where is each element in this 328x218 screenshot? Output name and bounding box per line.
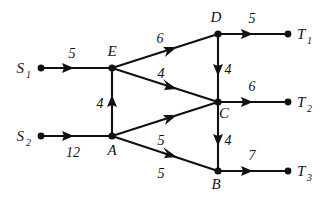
node-dot-s1: [38, 65, 45, 72]
edge-line-e-c: [112, 68, 218, 102]
network-graph-canvas: S 1 S 2 E A D C B T 1 T 2 T 3 5 12 4 6 4…: [0, 0, 328, 218]
edge-b-t3: [218, 166, 288, 176]
node-sub-t3: 3: [306, 172, 312, 183]
node-sub-s2: 2: [26, 137, 31, 148]
edge-line-a-b: [112, 136, 218, 171]
edge-weight-a-e: 4: [97, 96, 104, 111]
node-label-t3: T: [297, 163, 307, 179]
node-dot-t3: [285, 168, 292, 175]
node-dot-e: [108, 64, 115, 71]
edge-weight-s1-e: 5: [69, 46, 76, 61]
edge-d-c: [213, 34, 223, 102]
edge-line-a-c: [112, 102, 218, 136]
edge-weight-e-c: 4: [158, 66, 165, 81]
edge-weight-d-c: 4: [225, 62, 232, 77]
edge-e-c: [112, 68, 218, 102]
node-label-t1: T: [297, 26, 307, 42]
edge-s2-a: [41, 131, 112, 141]
edge-weight-a-c: 5: [158, 133, 165, 148]
edge-weight-a-b: 5: [158, 166, 165, 181]
node-sub-s1: 1: [26, 69, 31, 80]
edge-s1-e: [41, 63, 112, 73]
edge-a-b: [112, 136, 218, 171]
edge-line-e-d: [112, 34, 218, 68]
edge-weight-e-d: 6: [157, 31, 164, 46]
node-dot-b: [214, 167, 221, 174]
node-dot-d: [214, 30, 221, 37]
edge-d-t1: [218, 29, 288, 39]
node-label-t2: T: [297, 94, 307, 110]
node-label-e: E: [106, 43, 116, 59]
edge-e-d: [112, 34, 218, 68]
node-dot-t1: [285, 31, 292, 38]
network-flow-diagram: S 1 S 2 E A D C B T 1 T 2 T 3 5 12 4 6 4…: [0, 0, 328, 218]
edge-weight-s2-a: 12: [66, 145, 80, 160]
edge-weight-c-b: 4: [225, 133, 232, 148]
node-label-c: C: [219, 105, 230, 121]
node-labels-layer: S 1 S 2 E A D C B T 1 T 2 T 3: [17, 9, 313, 192]
edge-weights-layer: 5 12 4 6 4 5 5 4 4 5 6 7: [66, 11, 257, 181]
edge-weight-b-t3: 7: [249, 148, 257, 163]
node-label-s1: S: [17, 60, 25, 76]
node-dot-s2: [38, 133, 45, 140]
node-label-b: B: [211, 176, 220, 192]
edge-a-c: [112, 102, 218, 136]
node-sub-t2: 2: [307, 103, 312, 114]
node-dot-a: [108, 132, 115, 139]
edge-weight-d-t1: 5: [249, 11, 256, 26]
node-label-d: D: [210, 9, 222, 25]
node-dot-t2: [285, 99, 292, 106]
edge-weight-c-t2: 6: [249, 79, 256, 94]
edge-a-e: [107, 68, 117, 136]
node-sub-t1: 1: [307, 35, 312, 46]
node-label-a: A: [106, 142, 117, 158]
node-label-s2: S: [17, 128, 25, 144]
